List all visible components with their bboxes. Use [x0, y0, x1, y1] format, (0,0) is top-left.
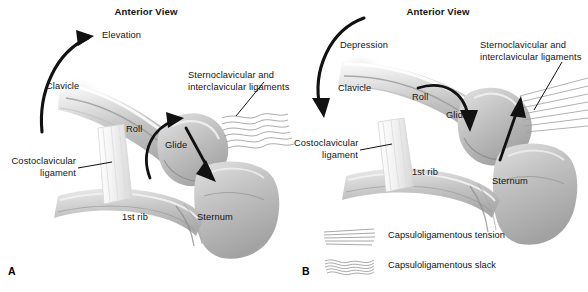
anatomical-figure: Anterior View Elevation Clavicle Sternoc… — [0, 0, 588, 292]
panel-letter-a: A — [8, 265, 16, 277]
ligaments-line-1: Sternoclavicular and — [480, 40, 566, 50]
depression-label: Depression — [340, 40, 388, 51]
clavicle-label-a: Clavicle — [46, 81, 79, 92]
legend-item-slack: Capsuloligamentous slack — [322, 254, 588, 280]
costoclavicular-line-2: ligament — [40, 168, 76, 178]
legend-label-slack: Capsuloligamentous slack — [388, 260, 496, 270]
ligaments-line-1: Sternoclavicular and — [188, 70, 274, 80]
costoclavicular-line-1: Costoclavicular — [12, 156, 76, 166]
panel-a-illustration — [0, 0, 294, 292]
first-rib-label-a: 1st rib — [122, 212, 148, 223]
sternoclavicular-ligaments-label-b: Sternoclavicular and interclavicular lig… — [480, 40, 588, 63]
sternoclavicular-ligament-fibers-slack — [222, 114, 294, 148]
sternum-label-a: Sternum — [197, 212, 233, 223]
legend-item-tension: Capsuloligamentous tension — [322, 224, 588, 250]
glide-label-a: Glide — [165, 140, 187, 151]
wavy-fibers-icon — [322, 254, 378, 280]
ligaments-line-2: interclavicular ligaments — [480, 52, 582, 62]
clavicle-label-b: Clavicle — [338, 83, 371, 94]
roll-label-a: Roll — [126, 124, 142, 135]
panel-a-title: Anterior View — [96, 6, 196, 17]
legend-label-tension: Capsuloligamentous tension — [388, 230, 505, 240]
panel-a: Anterior View Elevation Clavicle Sternoc… — [0, 0, 294, 292]
legend: Capsuloligamentous tension Capsuloligame… — [322, 224, 588, 284]
glide-label-b: Glide — [446, 110, 468, 121]
costoclavicular-ligament-label-b: Costoclavicular ligament — [294, 138, 358, 161]
roll-label-b: Roll — [412, 92, 428, 103]
straight-fibers-icon — [322, 224, 378, 250]
ligaments-line-2: interclavicular ligaments — [188, 82, 290, 92]
costoclavicular-line-2: ligament — [322, 150, 358, 160]
elevation-label: Elevation — [102, 30, 141, 41]
costoclavicular-line-1: Costoclavicular — [294, 138, 358, 148]
first-rib-label-b: 1st rib — [412, 167, 438, 178]
sternoclavicular-ligaments-label-a: Sternoclavicular and interclavicular lig… — [188, 70, 294, 93]
panel-letter-b: B — [302, 265, 310, 277]
sternum-label-b: Sternum — [492, 176, 528, 187]
panel-b-title: Anterior View — [388, 6, 488, 17]
costoclavicular-ligament-label-a: Costoclavicular ligament — [0, 156, 76, 179]
